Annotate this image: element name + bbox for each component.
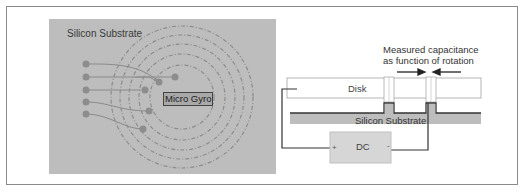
cross-section-schematic — [0, 0, 527, 196]
plus-terminal: + — [332, 143, 337, 152]
caption-line-1: Measured capacitance — [383, 44, 479, 55]
capacitance-caption: Measured capacitance as function of rota… — [383, 44, 479, 66]
minus-terminal: - — [387, 141, 390, 150]
disk-label: Disk — [348, 83, 366, 94]
dc-source-label: DC — [356, 141, 370, 152]
caption-line-2: as function of rotation — [383, 55, 479, 66]
substrate-label: Silicon Substrate — [355, 115, 426, 126]
